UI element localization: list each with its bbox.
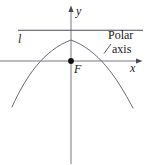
polar-label: Polar	[108, 29, 133, 41]
parabola-figure: l y x F Polar axis	[0, 0, 147, 164]
axis-label: axis	[112, 43, 131, 55]
y-axis	[68, 6, 73, 165]
y-axis-arrow-icon	[68, 6, 73, 13]
x-axis-arrow-icon	[136, 58, 143, 63]
y-axis-label: y	[76, 5, 81, 17]
focus-label: F	[74, 63, 81, 75]
figure-canvas	[0, 0, 147, 164]
directrix-label: l	[18, 33, 21, 45]
x-axis-label: x	[130, 62, 135, 74]
axis-pointer-tick-icon	[104, 44, 111, 54]
